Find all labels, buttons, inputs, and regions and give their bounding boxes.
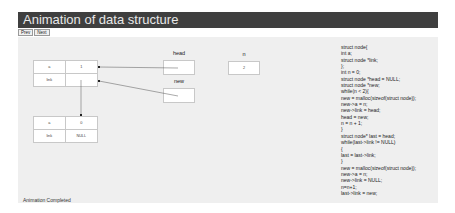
code-listing: struct node{int a;struct node *link;};in…	[341, 44, 416, 196]
n-variable-label: n	[228, 51, 260, 57]
node-2-link-label: link	[34, 130, 66, 143]
code-line: last->link = new;	[341, 190, 416, 196]
animation-controls: Prev Next	[18, 29, 50, 36]
head-variable-label: head	[163, 50, 195, 56]
node-1-link-value	[66, 74, 98, 87]
head-variable-box	[163, 60, 195, 75]
node-1-link-label: link	[34, 74, 66, 87]
node-1-data-label: a	[34, 61, 66, 74]
linked-list-node-2: a 0 link NULL	[33, 116, 98, 143]
animation-status: Animation Completed	[23, 197, 71, 203]
node-1-data-value: 1	[66, 61, 98, 74]
node-2-data-label: a	[34, 117, 66, 130]
new-variable-box	[163, 88, 195, 103]
app-root: Animation of data structure Prev Next a …	[0, 0, 455, 213]
new-variable-label: new	[163, 78, 195, 84]
page-title: Animation of data structure	[18, 12, 438, 28]
node-2-link-value: NULL	[66, 130, 98, 143]
linked-list-node-1: a 1 link	[33, 60, 98, 87]
prev-button[interactable]: Prev	[18, 29, 33, 36]
node-2-data-value: 0	[66, 117, 98, 130]
code-line: new = malloc(sizeof(struct node));	[341, 165, 416, 171]
next-button[interactable]: Next	[34, 29, 49, 36]
n-variable-box: 2	[228, 61, 260, 75]
